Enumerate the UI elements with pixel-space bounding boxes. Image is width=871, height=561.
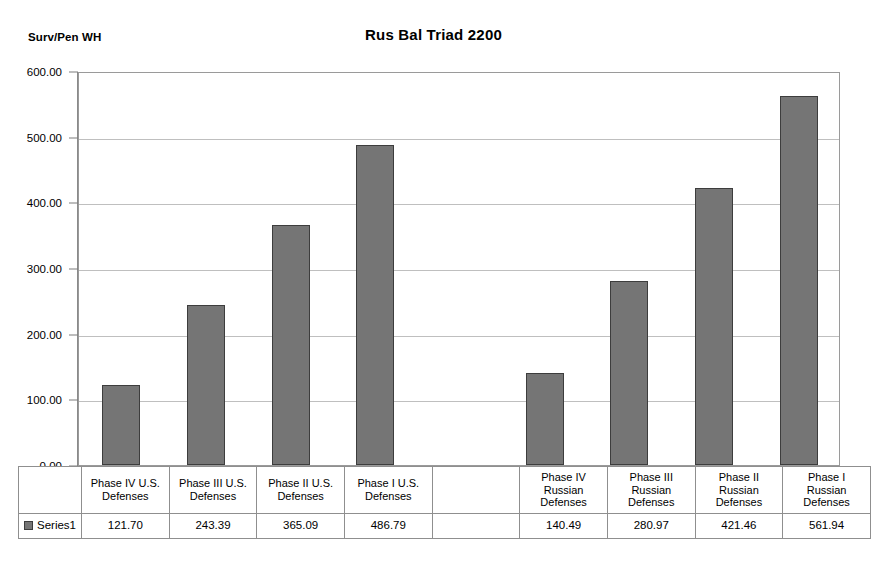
y-axis-tick-mark xyxy=(69,400,78,401)
table-row-series1: Series1 121.70243.39365.09486.79140.4928… xyxy=(19,514,871,539)
table-cell-value: 561.94 xyxy=(783,514,871,539)
table-cell-category: Phase IRussianDefenses xyxy=(783,467,871,514)
bar[interactable] xyxy=(272,225,310,465)
table-cell-value: 365.09 xyxy=(257,514,345,539)
table-cell-category: Phase III U.S.Defenses xyxy=(169,467,257,514)
bar[interactable] xyxy=(102,385,140,465)
category-label-line: Defenses xyxy=(609,496,694,509)
bar-slot xyxy=(756,73,841,465)
category-label-line: Phase I U.S. xyxy=(346,477,431,490)
category-label-line: Russian xyxy=(697,484,782,497)
table-cell-category-empty xyxy=(432,467,520,514)
series-color-swatch xyxy=(24,521,33,530)
table-cell-category: Phase IIIRussianDefenses xyxy=(607,467,695,514)
y-axis-tick-label: 200.00 xyxy=(27,329,62,341)
category-label-line: Russian xyxy=(609,484,694,497)
bar-slot xyxy=(587,73,672,465)
category-label-line: Defenses xyxy=(346,490,431,503)
category-label-line: Phase II U.S. xyxy=(258,477,343,490)
table-cell-value: 140.49 xyxy=(520,514,608,539)
bar[interactable] xyxy=(187,305,225,465)
table-cell-value: 121.70 xyxy=(82,514,170,539)
category-row-spacer xyxy=(19,467,82,514)
table-cell-value: 421.46 xyxy=(695,514,783,539)
bar[interactable] xyxy=(610,281,648,466)
y-axis-tick-label: 100.00 xyxy=(27,394,62,406)
y-axis-tick-label: 600.00 xyxy=(27,66,62,78)
bar-slot xyxy=(164,73,249,465)
legend-series-label: Series1 xyxy=(37,519,76,531)
category-label-line: Defenses xyxy=(258,490,343,503)
category-label-line: Phase IV xyxy=(521,471,606,484)
category-label-line: Defenses xyxy=(697,496,782,509)
table-cell-category: Phase I U.S.Defenses xyxy=(344,467,432,514)
data-table: Phase IV U.S.DefensesPhase III U.S.Defen… xyxy=(18,466,871,539)
bar-slot xyxy=(248,73,333,465)
category-label-line: Defenses xyxy=(784,496,869,509)
table-cell-category: Phase IV U.S.Defenses xyxy=(82,467,170,514)
category-label-line: Defenses xyxy=(521,496,606,509)
bar[interactable] xyxy=(780,96,818,465)
bar[interactable] xyxy=(526,373,564,465)
y-axis-tick-label: 300.00 xyxy=(27,263,62,275)
y-axis-tick-mark xyxy=(69,203,78,204)
bars-layer xyxy=(79,73,839,465)
table-cell-value: 280.97 xyxy=(607,514,695,539)
bar-slot xyxy=(502,73,587,465)
table-cell-value-empty xyxy=(432,514,520,539)
table-cell-category: Phase II U.S.Defenses xyxy=(257,467,345,514)
y-axis-tick-mark xyxy=(69,72,78,73)
category-label-line: Defenses xyxy=(171,490,256,503)
category-label-line: Defenses xyxy=(83,490,168,503)
table-cell-value: 243.39 xyxy=(169,514,257,539)
legend-cell: Series1 xyxy=(19,514,82,539)
category-label-line: Phase I xyxy=(784,471,869,484)
chart-title: Rus Bal Triad 2200 xyxy=(0,26,867,43)
plot-area xyxy=(78,72,840,466)
y-axis-tick-mark xyxy=(69,137,78,138)
category-label-line: Phase IV U.S. xyxy=(83,477,168,490)
table-cell-value: 486.79 xyxy=(344,514,432,539)
category-label-line: Russian xyxy=(521,484,606,497)
category-label-line: Phase III xyxy=(609,471,694,484)
category-label-line: Phase III U.S. xyxy=(171,477,256,490)
bar[interactable] xyxy=(695,188,733,465)
table-cell-category: Phase IVRussianDefenses xyxy=(520,467,608,514)
bar-slot xyxy=(79,73,164,465)
category-label-line: Phase II xyxy=(697,471,782,484)
bar-slot xyxy=(333,73,418,465)
category-label-line: Russian xyxy=(784,484,869,497)
bar[interactable] xyxy=(356,145,394,465)
y-axis-tick-mark xyxy=(69,334,78,335)
table-row-categories: Phase IV U.S.DefensesPhase III U.S.Defen… xyxy=(19,467,871,514)
y-axis-tick-mark xyxy=(69,269,78,270)
y-axis-tick-label: 400.00 xyxy=(27,197,62,209)
y-axis-tick-label: 500.00 xyxy=(27,132,62,144)
bar-slot xyxy=(418,73,503,465)
table-cell-category: Phase IIRussianDefenses xyxy=(695,467,783,514)
bar-slot xyxy=(672,73,757,465)
